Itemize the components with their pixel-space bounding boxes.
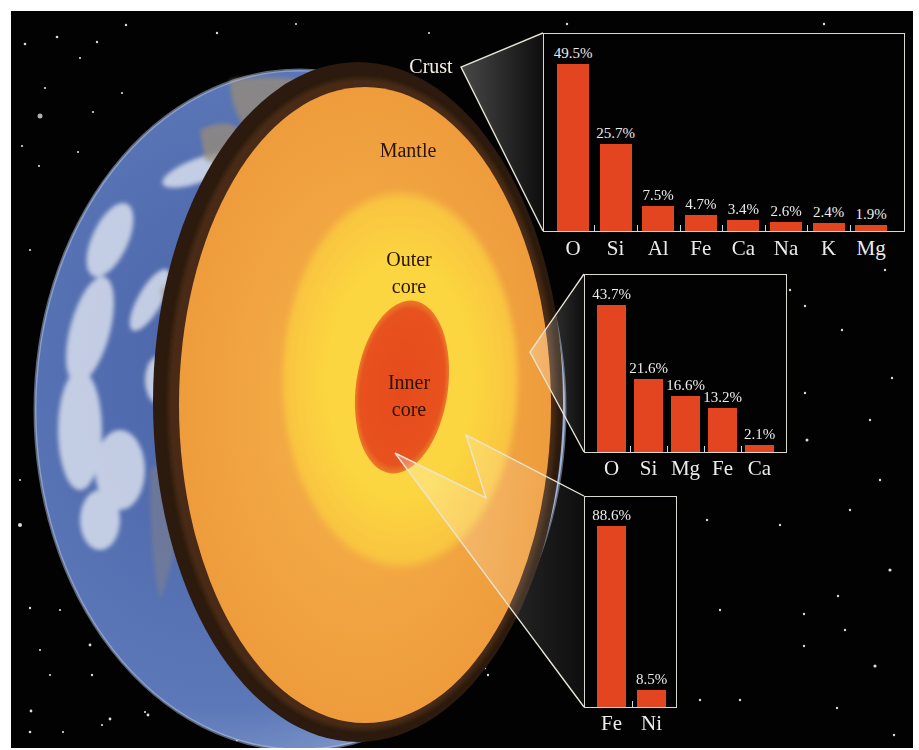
axis-tick <box>630 446 631 452</box>
bar-o <box>597 305 626 452</box>
axis-tick <box>741 446 742 452</box>
bar-value-label: 2.4% <box>813 204 844 221</box>
bar-ni <box>637 690 666 707</box>
bar-si <box>600 144 632 231</box>
bar-value-label: 88.6% <box>592 507 631 524</box>
bar-fe <box>708 408 737 452</box>
bar-fe <box>597 526 626 707</box>
bar-value-label: 13.2% <box>703 389 742 406</box>
bar-category-label: Fe <box>712 456 733 481</box>
bar-ca <box>727 220 759 231</box>
bar-mg <box>855 225 887 231</box>
axis-tick <box>765 225 766 231</box>
label-outer-core-line2: core <box>392 273 426 299</box>
axis-tick <box>807 225 808 231</box>
bar-category-label: Ca <box>732 236 755 261</box>
bar-category-label: Na <box>774 236 799 261</box>
bar-category-label: O <box>565 236 580 261</box>
bar-value-label: 8.5% <box>636 671 667 688</box>
bar-k <box>813 223 845 231</box>
bar-value-label: 7.5% <box>643 187 674 204</box>
bar-value-label: 21.6% <box>629 360 668 377</box>
bar-category-label: O <box>604 456 619 481</box>
bar-category-label: Fe <box>601 711 622 736</box>
bar-value-label: 2.1% <box>744 426 775 443</box>
bar-value-label: 49.5% <box>554 45 593 62</box>
bar-category-label: Al <box>648 236 669 261</box>
label-crust: Crust <box>409 55 452 78</box>
bar-value-label: 1.9% <box>856 206 887 223</box>
label-inner-core-line1: Inner <box>388 369 430 395</box>
bar-value-label: 16.6% <box>666 377 705 394</box>
axis-tick <box>722 225 723 231</box>
label-mantle: Mantle <box>380 137 437 163</box>
axis-tick <box>704 446 705 452</box>
bar-category-label: Mg <box>857 236 886 261</box>
bar-value-label: 43.7% <box>592 286 631 303</box>
bar-al <box>642 206 674 231</box>
bar-category-label: K <box>821 236 836 261</box>
bar-category-label: Ca <box>748 456 771 481</box>
label-outer-core-line1: Outer <box>386 246 432 272</box>
axis-tick <box>680 225 681 231</box>
bar-o <box>557 64 589 231</box>
axis-tick <box>637 225 638 231</box>
axis-tick <box>632 701 633 707</box>
bar-category-label: Mg <box>671 456 700 481</box>
bar-mg <box>671 396 700 452</box>
bar-value-label: 4.7% <box>685 196 716 213</box>
bar-ca <box>745 445 774 452</box>
bar-category-label: Si <box>607 236 625 261</box>
bar-si <box>634 379 663 452</box>
bar-fe <box>685 215 717 231</box>
axis-tick <box>667 446 668 452</box>
bar-category-label: Fe <box>690 236 711 261</box>
bar-na <box>770 222 802 231</box>
bar-category-label: Ni <box>641 711 662 736</box>
bar-category-label: Si <box>640 456 658 481</box>
axis-tick <box>850 225 851 231</box>
axis-tick <box>594 225 595 231</box>
bar-value-label: 25.7% <box>596 125 635 142</box>
bar-value-label: 2.6% <box>770 203 801 220</box>
bar-value-label: 3.4% <box>728 201 759 218</box>
label-inner-core-line2: core <box>392 396 426 422</box>
